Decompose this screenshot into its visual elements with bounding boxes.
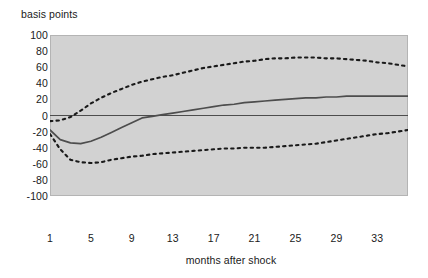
x-axis-title-text: months after shock [152,254,277,266]
x-tick-label: 1 [35,233,65,243]
x-tick-label: 33 [362,233,392,243]
x-tick-label: 17 [199,233,229,243]
x-tick-label: 25 [280,233,310,243]
x-tick-label: 9 [117,233,147,243]
x-axis-tick-labels: 159131721252933 [0,0,428,278]
x-tick-label: 5 [76,233,106,243]
x-axis-title: months after shock [0,254,428,266]
impulse-response-chart: basis points 100806040200-20-40-60-80-10… [0,0,428,278]
x-tick-label: 21 [240,233,270,243]
x-tick-label: 13 [158,233,188,243]
x-tick-label: 29 [321,233,351,243]
